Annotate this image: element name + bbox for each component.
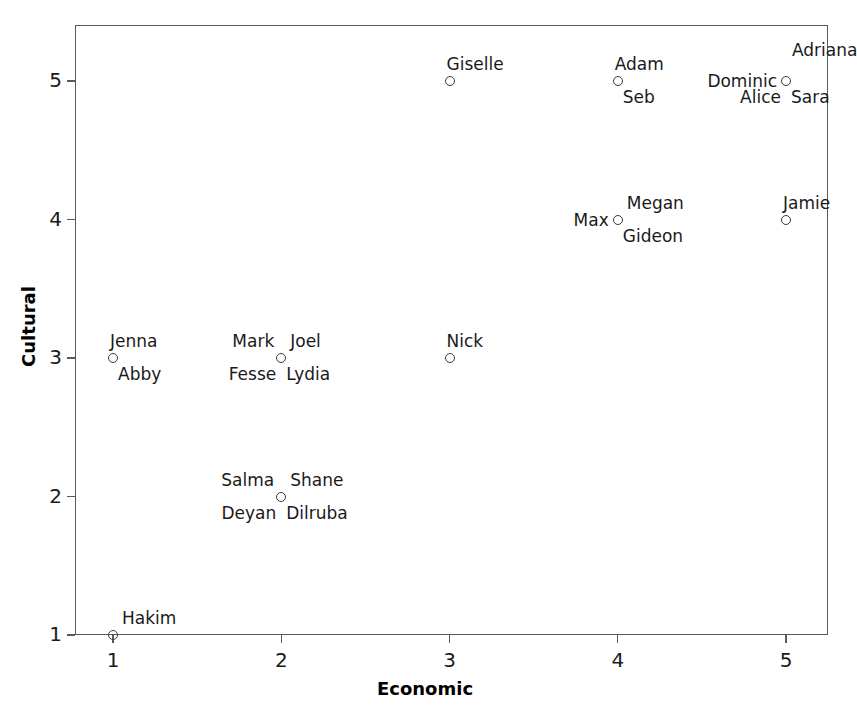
x-tick-mark bbox=[449, 635, 450, 643]
x-tick-mark bbox=[617, 635, 618, 643]
x-tick-mark bbox=[785, 635, 786, 643]
y-tick-mark bbox=[67, 357, 75, 358]
x-tick-label: 5 bbox=[766, 648, 806, 672]
y-tick-label: 2 bbox=[30, 484, 62, 508]
plot-frame bbox=[75, 25, 828, 635]
x-axis-title: Economic bbox=[0, 678, 850, 699]
y-tick-mark bbox=[67, 496, 75, 497]
x-tick-label: 4 bbox=[598, 648, 638, 672]
y-tick-mark bbox=[67, 634, 75, 635]
y-tick-label: 1 bbox=[30, 622, 62, 646]
x-tick-label: 3 bbox=[430, 648, 470, 672]
x-tick-mark bbox=[112, 635, 113, 643]
x-tick-label: 1 bbox=[93, 648, 133, 672]
y-axis-title: Cultural bbox=[18, 247, 39, 407]
y-tick-mark bbox=[67, 219, 75, 220]
y-tick-label: 4 bbox=[30, 207, 62, 231]
y-tick-label: 5 bbox=[30, 68, 62, 92]
x-tick-label: 2 bbox=[261, 648, 301, 672]
y-tick-mark bbox=[67, 80, 75, 81]
x-tick-mark bbox=[281, 635, 282, 643]
